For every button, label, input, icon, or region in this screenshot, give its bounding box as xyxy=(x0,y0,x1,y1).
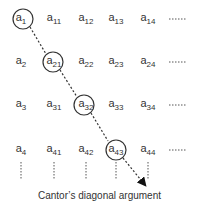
matrix-entry: a21 xyxy=(46,54,61,71)
matrix-entry: a13 xyxy=(108,11,123,28)
matrix-entry: a42 xyxy=(78,142,93,159)
matrix-entry: a4 xyxy=(16,142,27,159)
matrix-entry: a2 xyxy=(16,54,27,71)
matrix-entry: a33 xyxy=(108,97,123,114)
matrix-entry: a31 xyxy=(46,97,61,114)
matrix-entry: a24 xyxy=(140,54,155,71)
matrix-entry: a12 xyxy=(78,11,93,28)
caption: Cantor’s diagonal argument xyxy=(0,190,199,201)
matrix-entry: a34 xyxy=(140,97,155,114)
matrix-entry: a44 xyxy=(140,142,155,159)
matrix-entry: a1 xyxy=(16,11,27,28)
matrix-entry: a3 xyxy=(16,97,27,114)
matrix-entry: a22 xyxy=(78,54,93,71)
matrix-entry: a41 xyxy=(46,142,61,159)
matrix-entry: a43 xyxy=(108,142,123,159)
matrix-entry: a32 xyxy=(78,97,93,114)
diagram-lines xyxy=(0,0,199,204)
matrix-entry: a23 xyxy=(108,54,123,71)
matrix-entry: a14 xyxy=(140,11,155,28)
matrix-entry: a11 xyxy=(47,11,61,28)
